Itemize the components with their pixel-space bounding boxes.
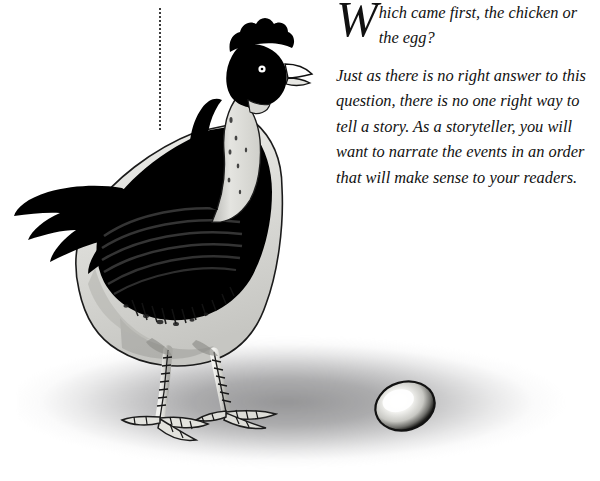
lead-paragraph: Which came first, the chicken or the egg… — [336, 0, 594, 50]
foot-back — [196, 411, 276, 429]
lead-paragraph-text: hich came first, the chicken or the egg? — [379, 3, 577, 47]
text-column: Which came first, the chicken or the egg… — [336, 0, 594, 190]
book-page: Which came first, the chicken or the egg… — [0, 0, 600, 481]
body-paragraph: Just as there is no right answer to this… — [336, 63, 594, 190]
drop-cap-w: W — [336, 0, 378, 37]
egg-illustration — [372, 378, 438, 434]
chicken-head — [226, 18, 312, 114]
